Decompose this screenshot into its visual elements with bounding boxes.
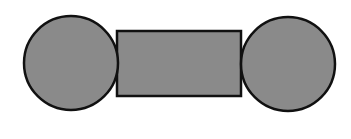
dumbbell-diagram	[0, 0, 351, 139]
right-circle	[241, 17, 335, 111]
left-circle	[24, 16, 118, 110]
center-rectangle	[117, 31, 241, 96]
